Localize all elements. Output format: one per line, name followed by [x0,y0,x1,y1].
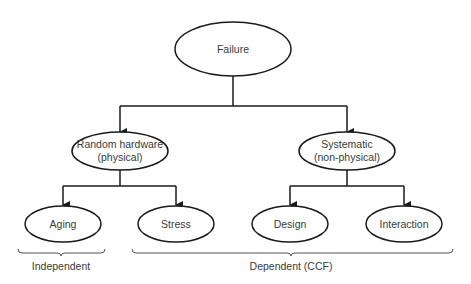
brace-dependent-label: Dependent (CCF) [250,260,333,272]
node-design: Design [252,206,328,242]
brace-dependent: Dependent (CCF) [132,249,453,272]
node-design-label: Design [274,218,307,230]
node-failure: Failure [175,22,291,76]
node-failure-label: Failure [217,43,249,55]
node-systematic-label-line1: Systematic [321,138,372,150]
failure-tree-diagram: Failure Random hardware (physical) Syste… [0,0,471,284]
connector-systematic [290,170,404,205]
connector-random-hardware [63,170,176,205]
connector-root [120,76,347,132]
node-random-hardware-label-line2: (physical) [98,151,143,163]
node-interaction-label: Interaction [379,218,428,230]
node-interaction: Interaction [366,206,442,242]
node-random-hardware: Random hardware (physical) [72,132,168,170]
brace-independent-label: Independent [32,260,90,272]
brace-independent: Independent [18,249,105,272]
node-random-hardware-label-line1: Random hardware [77,138,164,150]
node-aging: Aging [25,206,101,242]
node-stress-label: Stress [161,218,191,230]
node-systematic: Systematic (non-physical) [299,132,395,170]
node-stress: Stress [138,206,214,242]
node-aging-label: Aging [50,218,77,230]
node-systematic-label-line2: (non-physical) [314,151,380,163]
